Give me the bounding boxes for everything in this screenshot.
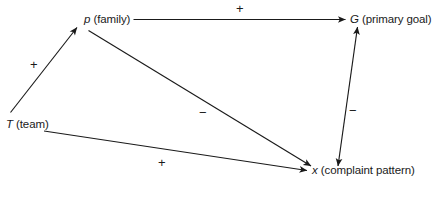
node-label-complaint-pattern: x (complaint pattern) [312, 165, 415, 177]
node-desc-complaint-pattern: (complaint pattern) [321, 164, 415, 176]
edge-family-to-complaint [89, 31, 312, 167]
edge-sign-family-to-complaint: − [199, 106, 207, 119]
node-label-team: T (team) [6, 119, 49, 131]
edge-team-to-complaint [44, 131, 307, 171]
node-desc-team: (team) [16, 118, 49, 130]
edge-team-to-family [11, 28, 78, 113]
node-desc-family: (family) [93, 13, 130, 25]
node-symbol-t: T [6, 118, 13, 130]
node-label-primary-goal: G (primary goal) [350, 14, 432, 26]
edge-sign-complaint-to-goal: − [349, 104, 357, 117]
node-label-family: p (family) [84, 14, 130, 26]
edge-complaint-goal-bidirectional [338, 27, 358, 166]
edge-sign-family-to-goal: + [236, 2, 244, 15]
node-symbol-g: G [350, 13, 359, 25]
node-desc-primary-goal: (primary goal) [362, 13, 432, 25]
edge-sign-team-to-complaint: + [158, 156, 166, 169]
causal-diagram: p (family) G (primary goal) T (team) x (… [0, 0, 443, 201]
edge-sign-team-to-family: + [30, 58, 38, 71]
